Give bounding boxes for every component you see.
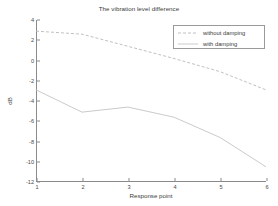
x-tick-label: 1 — [35, 181, 38, 190]
legend-item: with damping — [174, 38, 264, 49]
x-tick-label: 5 — [219, 181, 222, 190]
legend-line-swatch — [178, 40, 198, 48]
chart-title: The vibration level difference — [0, 5, 278, 12]
x-tick-label: 3 — [127, 181, 130, 190]
x-tick-mark — [267, 178, 268, 181]
legend-line-swatch — [178, 29, 198, 37]
series-line — [36, 90, 266, 167]
x-tick-label: 2 — [81, 181, 84, 190]
y-axis-label: dB — [6, 97, 13, 105]
x-tick-label: 4 — [173, 181, 176, 190]
legend-item: without damping — [174, 27, 264, 38]
chart-legend: without dampingwith damping — [173, 25, 265, 49]
legend-label: without damping — [203, 30, 245, 36]
figure-canvas: The vibration level difference 420-2-4-6… — [0, 0, 278, 206]
x-tick-label: 6 — [265, 181, 268, 190]
legend-label: with damping — [203, 41, 237, 47]
x-axis-label: Response point — [36, 192, 266, 199]
